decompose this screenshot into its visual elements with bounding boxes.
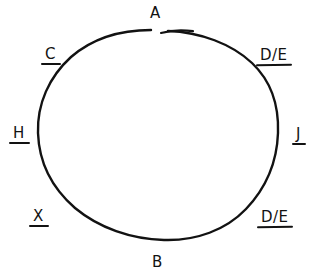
label-c-text: C — [44, 47, 57, 64]
label-de-top-text: D/E — [259, 48, 288, 65]
label-de-top: D/E — [259, 48, 288, 65]
label-h-text: H — [12, 126, 26, 143]
label-c: C — [44, 47, 57, 64]
label-a-text: A — [149, 6, 162, 23]
label-de-bottom: D/E — [260, 210, 289, 227]
label-j-text: J — [295, 127, 302, 144]
label-b-text: B — [151, 255, 164, 272]
label-de-bottom-text: D/E — [260, 210, 289, 227]
label-b: B — [151, 255, 164, 272]
label-a: A — [149, 6, 162, 23]
diagram-canvas: A C D/E H J X D/E B — [0, 0, 320, 278]
label-x-text: X — [32, 209, 45, 226]
circle-shape — [0, 0, 320, 278]
label-h: H — [12, 126, 26, 143]
label-j: J — [295, 127, 302, 144]
label-x: X — [32, 209, 45, 226]
